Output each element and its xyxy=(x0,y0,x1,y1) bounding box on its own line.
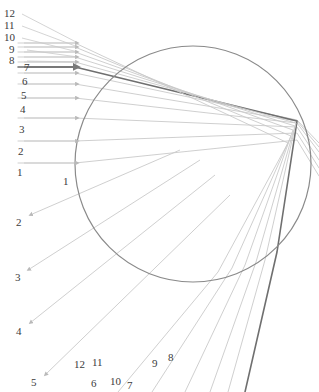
ray-path-ray-6 xyxy=(18,73,319,143)
ray-path-ray-12 xyxy=(18,43,288,392)
ray-label-entry-8: 8 xyxy=(9,55,15,66)
ray-trace-canvas xyxy=(0,0,319,392)
ray-label-exit-left-3: 3 xyxy=(15,272,21,283)
rays-group xyxy=(18,14,319,392)
ray-path-ray-1 xyxy=(18,140,319,176)
ray-label-exit-left-2: 2 xyxy=(16,217,22,228)
label-leader-line xyxy=(22,14,78,43)
ray-label-entry-11: 11 xyxy=(4,20,15,31)
ray-label-entry-1: 1 xyxy=(17,167,23,178)
ray-label-entry-7: 7 xyxy=(24,62,30,73)
ray-label-entry-5: 5 xyxy=(21,90,27,101)
ray-label-exit-bottom-6: 6 xyxy=(91,378,97,389)
ray-label-entry-2: 2 xyxy=(18,146,24,157)
exit-ray-lower-left-4 xyxy=(30,175,215,323)
ray-path-ray-4 xyxy=(18,98,319,152)
ray-label-exit-bottom-12: 12 xyxy=(74,359,85,370)
ray-label-inner-1: 1 xyxy=(63,176,69,187)
ray-path-ray-11 xyxy=(18,47,291,392)
ray-path-ray-10 xyxy=(18,52,293,392)
label-leader-line xyxy=(22,26,78,47)
ray-label-exit-left-5: 5 xyxy=(31,377,37,388)
ray-label-exit-bottom-10: 10 xyxy=(110,376,121,387)
ray-label-exit-bottom-7: 7 xyxy=(127,380,133,391)
ray-label-entry-4: 4 xyxy=(20,104,26,115)
ray-label-entry-3: 3 xyxy=(19,124,25,135)
ray-label-entry-6: 6 xyxy=(22,76,28,87)
ray-path-ray-7 xyxy=(18,67,297,392)
ray-label-exit-bottom-8: 8 xyxy=(168,352,174,363)
ray-label-exit-bottom-11: 11 xyxy=(92,357,103,368)
ray-label-entry-12: 12 xyxy=(4,8,15,19)
ray-path-ray-8 xyxy=(18,62,296,392)
ray-label-exit-left-4: 4 xyxy=(16,326,22,337)
ray-label-entry-10: 10 xyxy=(4,32,15,43)
ray-label-exit-bottom-9: 9 xyxy=(152,358,158,369)
label-leader-line xyxy=(27,50,78,57)
exit-ray-lower-left-5 xyxy=(45,195,230,375)
ray-diagram-figure: 121110987654321123451211610798 xyxy=(0,0,319,392)
label-leader-line xyxy=(22,38,78,52)
exit-ray-lower-left-3 xyxy=(28,160,200,270)
